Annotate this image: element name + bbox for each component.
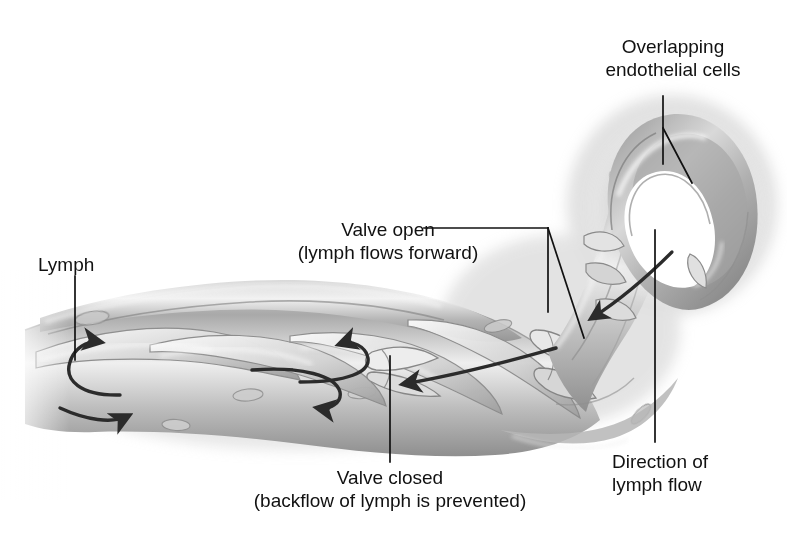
- label-valve-open-line1: Valve open: [276, 218, 500, 241]
- label-overlapping-endothelial-cells: Overlapping endothelial cells: [562, 35, 784, 81]
- label-direction-of-lymph-flow: Direction of lymph flow: [612, 450, 708, 496]
- label-lymph-line1: Lymph: [38, 253, 94, 276]
- label-lymph: Lymph: [38, 253, 94, 276]
- label-valve-closed-line2: (backflow of lymph is prevented): [210, 489, 570, 512]
- label-valve-open-line2: (lymph flows forward): [276, 241, 500, 264]
- label-overlapping-cells-line1: Overlapping: [562, 35, 784, 58]
- label-valve-closed-line1: Valve closed: [210, 466, 570, 489]
- label-valve-open: Valve open (lymph flows forward): [276, 218, 500, 264]
- label-direction-flow-line2: lymph flow: [612, 473, 708, 496]
- label-direction-flow-line1: Direction of: [612, 450, 708, 473]
- label-overlapping-cells-line2: endothelial cells: [562, 58, 784, 81]
- label-valve-closed: Valve closed (backflow of lymph is preve…: [210, 466, 570, 512]
- figure-canvas: Overlapping endothelial cells Valve open…: [0, 0, 787, 558]
